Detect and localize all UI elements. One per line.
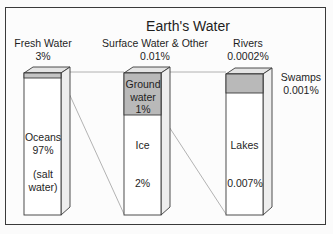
swamps-value: 0.001% [273, 84, 329, 97]
rivers-value: 0.0002% [218, 50, 278, 63]
fresh-water-value: 3% [8, 50, 78, 63]
groundwater-label-1: Ground [122, 78, 164, 91]
groundwater-text: Ground water 1% [122, 78, 164, 116]
header-surface-water: Surface Water & Other 0.01% [95, 37, 215, 62]
header-rivers: Rivers 0.0002% [218, 37, 278, 62]
swamps-annotation: Swamps 0.001% [273, 71, 329, 96]
lakes-value: 0.007% [224, 177, 266, 190]
bars-diagram [0, 0, 333, 234]
ice-value: 2% [124, 177, 161, 190]
oceans-text: Oceans 97% (salt water) [18, 131, 68, 193]
oceans-note-line-2: water) [18, 181, 68, 194]
ice-label: Ice [124, 139, 161, 152]
oceans-note-line-1: (salt [18, 168, 68, 181]
surface-water-label: Surface Water & Other [95, 37, 215, 50]
groundwater-label-2: water [122, 91, 164, 104]
header-fresh-water: Fresh Water 3% [8, 37, 78, 62]
fresh-water-label: Fresh Water [8, 37, 78, 50]
oceans-label: Oceans [18, 131, 68, 144]
lakes-label: Lakes [226, 139, 263, 152]
diagram-title: Earth's Water [118, 18, 258, 34]
swamps-label: Swamps [273, 71, 329, 84]
rivers-label: Rivers [218, 37, 278, 50]
groundwater-value: 1% [122, 103, 164, 116]
oceans-value: 97% [18, 144, 68, 157]
surface-water-value: 0.01% [95, 50, 215, 63]
